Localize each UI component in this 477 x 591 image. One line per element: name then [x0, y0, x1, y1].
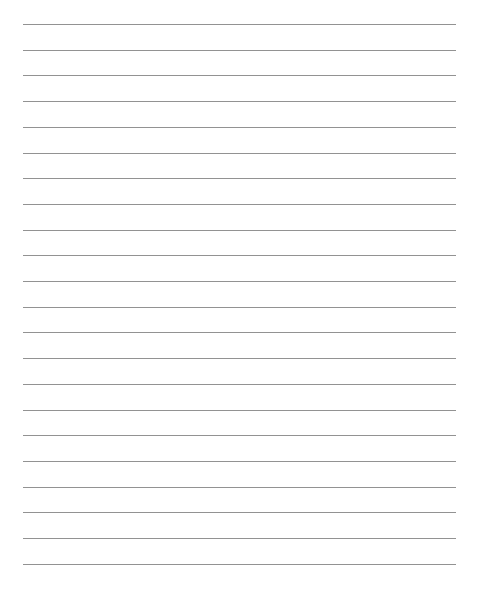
ruled-line: [23, 178, 456, 179]
ruled-line: [23, 358, 456, 359]
ruled-line: [23, 127, 456, 128]
ruled-line: [23, 281, 456, 282]
lined-paper-page: [0, 0, 477, 591]
ruled-line: [23, 50, 456, 51]
ruled-line: [23, 204, 456, 205]
ruled-line: [23, 435, 456, 436]
ruled-line: [23, 332, 456, 333]
ruled-line: [23, 487, 456, 488]
ruled-line: [23, 307, 456, 308]
ruled-line: [23, 461, 456, 462]
ruled-line: [23, 564, 456, 565]
ruled-line: [23, 512, 456, 513]
ruled-line: [23, 75, 456, 76]
ruled-line: [23, 410, 456, 411]
ruled-line: [23, 255, 456, 256]
ruled-line: [23, 101, 456, 102]
ruled-line: [23, 24, 456, 25]
ruled-line: [23, 153, 456, 154]
ruled-line: [23, 384, 456, 385]
ruled-line: [23, 230, 456, 231]
ruled-line: [23, 538, 456, 539]
